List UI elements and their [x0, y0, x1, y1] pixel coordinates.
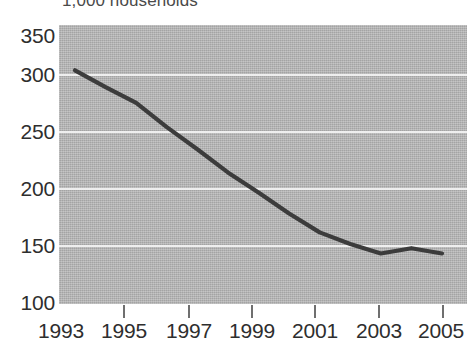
x-tick-mark-1997 [188, 305, 190, 318]
x-tick-label-2003: 2003 [356, 320, 402, 342]
line-chart-figure: 1,000 households 350 300 250 200 150 100… [0, 0, 467, 352]
x-tick-label-1997: 1997 [166, 320, 212, 342]
x-tick-label-1995: 1995 [101, 320, 147, 342]
x-tick-mark-2005 [442, 305, 444, 318]
x-axis: 1993 1995 1997 1999 2001 2003 2005 [0, 0, 467, 352]
x-tick-mark-1999 [251, 305, 253, 318]
x-tick-label-1999: 1999 [229, 320, 275, 342]
x-tick-mark-2003 [378, 305, 380, 318]
x-tick-label-1993: 1993 [38, 320, 84, 342]
x-tick-label-2001: 2001 [292, 320, 338, 342]
x-tick-mark-1995 [123, 305, 125, 318]
x-tick-label-2005: 2005 [418, 320, 464, 342]
x-tick-mark-2001 [314, 305, 316, 318]
